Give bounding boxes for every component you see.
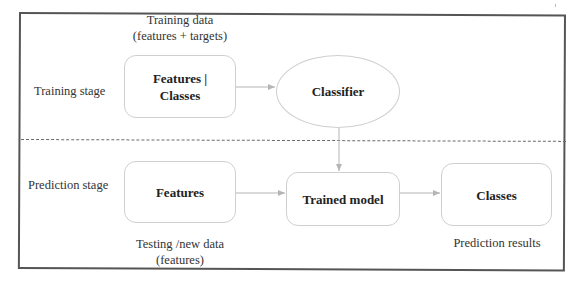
node-classifier: Classifier xyxy=(276,55,400,128)
node-training-features-line1: Features | xyxy=(153,70,207,87)
node-training-features-classes: Features | Classes xyxy=(124,55,236,118)
prediction-results-caption: Prediction results xyxy=(436,235,558,251)
diagram-frame xyxy=(18,12,566,271)
testing-data-caption: Testing /new data (features) xyxy=(120,236,240,268)
node-prediction-features: Features xyxy=(124,161,236,223)
prediction-stage-label: Prediction stage xyxy=(28,178,108,193)
training-data-caption-line1: Training data xyxy=(120,12,240,28)
testing-data-caption-line1: Testing /new data xyxy=(120,236,240,252)
training-data-caption: Training data (features + targets) xyxy=(120,12,240,44)
node-trained-model-label: Trained model xyxy=(302,191,383,208)
node-classes-label: Classes xyxy=(476,187,516,204)
scan-artifact xyxy=(555,4,556,7)
training-stage-label: Training stage xyxy=(34,84,105,99)
node-trained-model: Trained model xyxy=(286,172,400,226)
node-classes: Classes xyxy=(441,163,552,226)
training-data-caption-line2: (features + targets) xyxy=(120,28,240,44)
node-training-features-line2: Classes xyxy=(160,87,200,104)
node-classifier-label: Classifier xyxy=(312,84,365,100)
prediction-results-caption-line1: Prediction results xyxy=(436,235,558,251)
node-prediction-features-label: Features xyxy=(156,184,204,201)
testing-data-caption-line2: (features) xyxy=(120,252,240,268)
